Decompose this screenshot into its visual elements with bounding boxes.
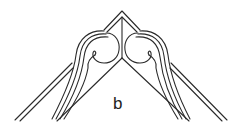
apex-peak: [104, 11, 140, 58]
left-scroll-bracket: [52, 31, 119, 119]
right-scroll-bracket: [125, 31, 190, 119]
inner-rafters: [57, 58, 189, 121]
figure-label: b: [113, 95, 122, 112]
